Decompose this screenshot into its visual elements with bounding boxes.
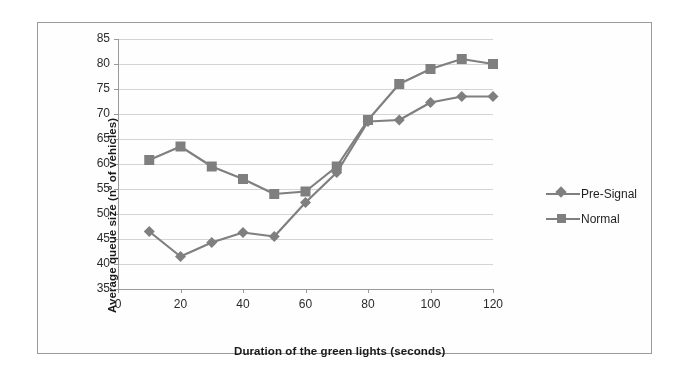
y-tick-label: 35 xyxy=(84,281,110,295)
x-tick-label: 20 xyxy=(163,297,199,311)
x-tick-label: 40 xyxy=(225,297,261,311)
x-tick-label: 0 xyxy=(100,297,136,311)
x-axis-title: Duration of the green lights (seconds) xyxy=(234,345,445,357)
y-tick-label: 65 xyxy=(84,131,110,145)
x-tick-label: 60 xyxy=(288,297,324,311)
diamond-marker-icon xyxy=(546,187,580,201)
legend-label-normal: Normal xyxy=(580,212,620,226)
x-tick-label: 100 xyxy=(413,297,449,311)
y-tick-label: 85 xyxy=(84,31,110,45)
x-tick-label: 120 xyxy=(475,297,511,311)
y-tick-label: 60 xyxy=(84,156,110,170)
y-tick-label: 50 xyxy=(84,206,110,220)
legend-label-pre-signal: Pre-Signal xyxy=(580,187,637,201)
legend-item-normal[interactable]: Normal xyxy=(546,206,681,231)
legend-item-pre-signal[interactable]: Pre-Signal xyxy=(546,181,681,206)
x-tick-label: 80 xyxy=(350,297,386,311)
chart-figure-frame: Average queue size (nº of vehicles) Dura… xyxy=(37,22,652,354)
y-tick-label: 70 xyxy=(84,106,110,120)
y-tick-label: 80 xyxy=(84,56,110,70)
y-tick-label: 55 xyxy=(84,181,110,195)
y-tick-label: 40 xyxy=(84,256,110,270)
y-tick-label: 45 xyxy=(84,231,110,245)
y-tick-label: 75 xyxy=(84,81,110,95)
chart-legend: Pre-Signal Normal xyxy=(546,181,681,231)
square-marker-icon xyxy=(546,212,580,226)
